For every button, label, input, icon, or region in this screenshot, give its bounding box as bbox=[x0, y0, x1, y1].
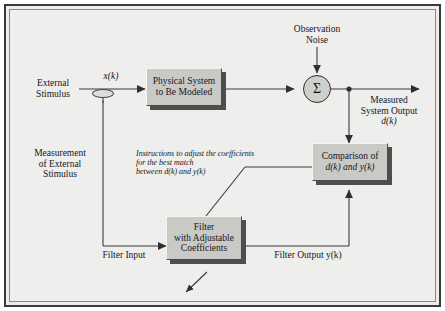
measurement-label: Measurement of External Stimulus bbox=[24, 148, 96, 180]
external-stimulus-line2: Stimulus bbox=[36, 89, 70, 99]
external-stimulus-label: External Stimulus bbox=[27, 78, 79, 99]
instructions-line1: Instructions to adjust the coefficients bbox=[136, 149, 254, 158]
measured-output-label: Measured System Output d(k) bbox=[346, 95, 432, 127]
filter-output-label: Filter Output y(k) bbox=[256, 250, 360, 261]
filter-block[interactable]: Filter with Adjustable Coefficients bbox=[166, 216, 242, 260]
comparison-label-line2: d(k) and y(k) bbox=[325, 162, 374, 172]
comparison-label-line1: Comparison of bbox=[322, 151, 379, 161]
physical-system-label-line2: to Be Modeled bbox=[156, 87, 212, 97]
measured-output-line1: Measured bbox=[370, 95, 407, 105]
instructions-annotation: Instructions to adjust the coefficients … bbox=[136, 150, 316, 177]
x-of-k-label: x(k) bbox=[94, 71, 128, 82]
measurement-line1: Measurement bbox=[34, 148, 86, 158]
filter-input-label: Filter Input bbox=[92, 250, 156, 261]
physical-system-label-line1: Physical System bbox=[153, 76, 216, 86]
physical-system-block[interactable]: Physical System to Be Modeled bbox=[146, 68, 222, 106]
external-stimulus-line1: External bbox=[37, 78, 69, 88]
measured-output-line2: System Output bbox=[361, 106, 418, 116]
observation-noise-line2: Noise bbox=[306, 35, 328, 45]
observation-noise-line1: Observation bbox=[294, 24, 340, 34]
line-filter-update-arrow bbox=[186, 272, 207, 292]
comparison-block[interactable]: Comparison of d(k) and y(k) bbox=[312, 143, 388, 181]
measurement-line2: of External bbox=[39, 159, 81, 169]
filter-label-line2: with Adjustable bbox=[174, 233, 234, 243]
instructions-line2: for the best match bbox=[136, 158, 194, 167]
figure-container: Physical System to Be Modeled Σ Comparis… bbox=[0, 0, 445, 311]
measured-output-line3: d(k) bbox=[381, 116, 396, 126]
filter-label-line1: Filter bbox=[194, 222, 215, 232]
measurement-line3: Stimulus bbox=[43, 169, 77, 179]
observation-noise-label: Observation Noise bbox=[280, 24, 354, 45]
filter-label-line3: Coefficients bbox=[181, 243, 227, 253]
measurement-tap-icon bbox=[92, 89, 114, 98]
junction-dot bbox=[346, 86, 351, 91]
instructions-line3: between d(k) and y(k) bbox=[136, 167, 206, 176]
summing-junction[interactable]: Σ bbox=[303, 75, 331, 103]
sigma-icon: Σ bbox=[313, 81, 321, 97]
